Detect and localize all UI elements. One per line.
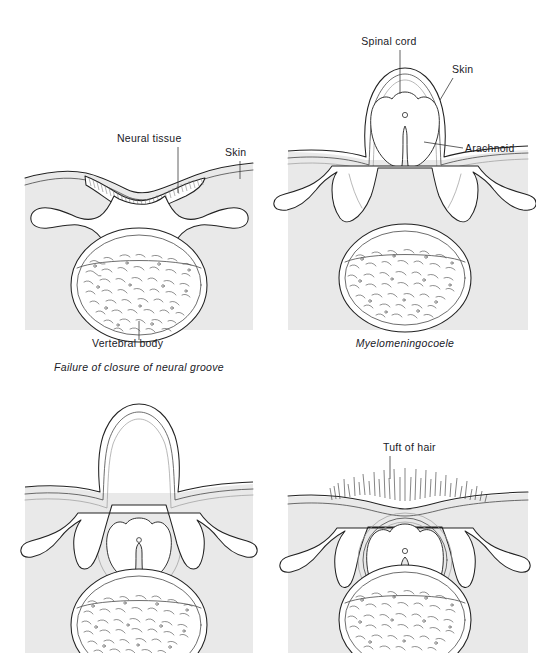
panel-bottom-right: Tuft of hair [280, 441, 530, 653]
caption-top-right: Myelomeningocoele [356, 337, 455, 349]
skin-label-tl: Skin [225, 146, 246, 158]
figure-root: Neural tissue Skin Vertebral body Failur… [0, 0, 536, 653]
vertebral-body-label: Vertebral body [92, 337, 164, 349]
label-skin-tr: Skin [440, 63, 473, 100]
label-arachnoid-tr: Arachnoid [424, 142, 515, 154]
skin-leader-tr [440, 78, 453, 100]
spinal-cord-label: Spinal cord [361, 35, 416, 47]
tuft-of-hair-label: Tuft of hair [383, 441, 436, 453]
arachnoid-label: Arachnoid [465, 142, 515, 154]
panel-top-left: Neural tissue Skin Vertebral body Failur… [25, 132, 253, 373]
vertebral-body-tr [339, 224, 471, 332]
spina-bifida-figure: Neural tissue Skin Vertebral body Failur… [0, 0, 536, 653]
caption-top-left: Failure of closure of neural groove [54, 361, 224, 373]
label-tuft-of-hair-br: Tuft of hair [383, 441, 436, 479]
label-neural-tissue-tl: Neural tissue [117, 132, 182, 193]
neural-tissue-label: Neural tissue [117, 132, 182, 144]
panel-top-right: Spinal cord Skin Arachnoid Myelomeningoc… [274, 35, 536, 349]
skin-label-tr: Skin [452, 63, 473, 75]
panel-bottom-left [21, 404, 257, 653]
